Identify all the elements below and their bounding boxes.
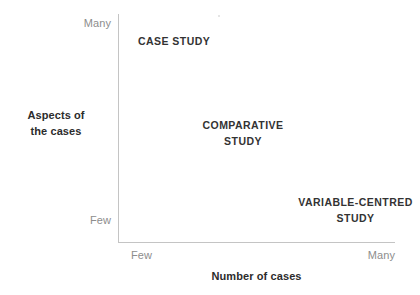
annotation-comparative-study-line-2: STUDY: [183, 133, 303, 149]
annotation-case-study: CASE STUDY: [138, 33, 210, 49]
annotation-variable-centred-study: VARIABLE-CENTRED STUDY: [297, 194, 414, 226]
y-axis-title: Aspects of the cases: [0, 107, 112, 139]
x-axis-title: Number of cases: [118, 268, 395, 284]
y-axis-tick-many: Many: [0, 17, 111, 29]
annotation-comparative-study-line-1: COMPARATIVE: [183, 117, 303, 133]
annotation-comparative-study: COMPARATIVE STUDY: [183, 117, 303, 149]
x-axis-line: [118, 242, 395, 243]
x-axis-tick-many: Many: [304, 249, 395, 261]
y-axis-tick-few: Few: [0, 214, 111, 226]
y-axis-title-line-1: Aspects of: [0, 107, 112, 123]
research-design-quadrant-diagram: Many Few Few Many Aspects of the cases N…: [0, 0, 420, 295]
y-axis-title-line-2: the cases: [0, 123, 112, 139]
scan-artifact-speck: [218, 15, 220, 17]
annotation-variable-centred-study-line-2: STUDY: [297, 210, 414, 226]
y-axis-line: [118, 14, 119, 243]
annotation-variable-centred-study-line-1: VARIABLE-CENTRED: [297, 194, 414, 210]
x-axis-tick-few: Few: [131, 249, 152, 261]
annotation-case-study-line-1: CASE STUDY: [138, 33, 210, 49]
